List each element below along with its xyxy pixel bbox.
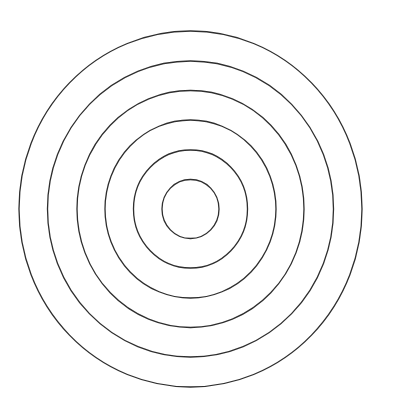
ring-6 [19, 31, 362, 387]
concentric-circles-diagram [0, 0, 396, 416]
ring-3 [105, 120, 276, 298]
ring-2 [134, 150, 248, 268]
ring-4 [77, 91, 304, 328]
diagram-canvas [0, 0, 396, 416]
ring-1 [162, 180, 219, 239]
ring-5 [48, 61, 334, 357]
